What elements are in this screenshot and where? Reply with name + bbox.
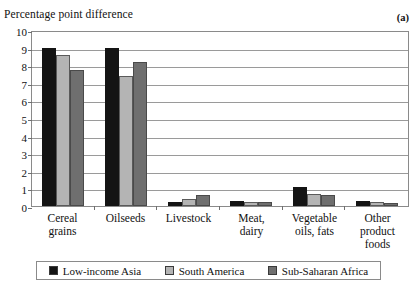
bar-group [95,32,158,206]
chart-figure: Percentage point difference (a) 10987654… [0,0,417,287]
legend-swatch-icon [49,266,58,275]
y-tick-label: 8 [22,62,28,73]
bar [168,202,182,206]
bar [56,55,70,206]
legend-label: Low-income Asia [63,265,142,277]
y-tick-mark [28,208,32,209]
panel-label: (a) [397,12,409,23]
bar [133,62,147,206]
plot-area: 109876543210 [31,31,409,207]
y-tick-label: 1 [22,185,28,196]
x-axis-label: Meat, dairy [220,212,283,251]
bar-group [345,32,408,206]
bar-group [157,32,220,206]
bar [258,202,272,206]
y-tick-label: 3 [22,150,28,161]
x-axis-label: Oilseeds [94,212,157,251]
bar [182,199,196,206]
y-tick-label: 9 [22,44,28,55]
y-axis-title: Percentage point difference [4,8,133,20]
y-tick-label: 7 [22,79,28,90]
y-tick-label: 5 [22,115,28,126]
y-tick-label: 6 [22,97,28,108]
legend-label: Sub-Saharan Africa [282,265,368,277]
y-tick-label: 0 [22,203,28,214]
x-axis-label: Cereal grains [31,212,94,251]
bar [293,187,307,206]
bar [244,202,258,206]
x-axis-labels: Cereal grainsOilseedsLivestockMeat, dair… [31,212,409,251]
bar-groups [32,32,408,206]
bar [105,48,119,206]
bar-group [32,32,95,206]
bar-group [283,32,346,206]
bar [119,76,133,206]
bar [370,202,384,206]
legend-item: Sub-Saharan Africa [268,265,368,277]
bar [307,194,321,206]
legend-swatch-icon [268,266,277,275]
legend-swatch-icon [165,266,174,275]
y-tick-label: 10 [16,27,27,38]
bar [356,201,370,206]
x-axis-label: Vegetable oils, fats [283,212,346,251]
x-axis-label: Livestock [157,212,220,251]
bar [196,195,210,206]
y-tick-label: 4 [22,132,28,143]
bar [384,203,398,206]
bar-group [220,32,283,206]
x-axis-label: Other product foods [346,212,409,251]
bar [230,201,244,206]
y-tick-label: 2 [22,167,28,178]
legend-label: South America [179,265,245,277]
legend-item: South America [165,265,245,277]
bar [42,48,56,206]
bar [321,195,335,206]
chart-legend: Low-income AsiaSouth AmericaSub-Saharan … [36,261,381,280]
bar [70,70,84,206]
legend-item: Low-income Asia [49,265,142,277]
